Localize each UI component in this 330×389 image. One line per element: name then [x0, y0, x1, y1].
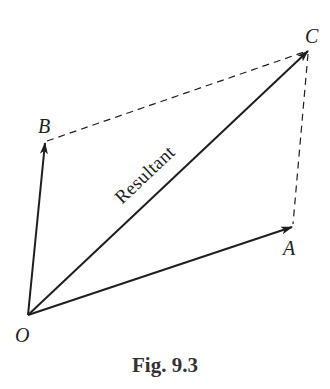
dashed-line-ac: [293, 54, 308, 224]
vector-ob: [28, 143, 45, 315]
vector-oa: [28, 227, 292, 315]
point-label-o: O: [15, 325, 29, 345]
parallelogram-of-vectors-figure: B C A O Resultant Fig. 9.3: [0, 0, 330, 389]
figure-caption: Fig. 9.3: [0, 355, 330, 376]
point-label-a: A: [283, 238, 295, 258]
dashed-line-bc: [47, 51, 307, 141]
point-label-b: B: [38, 116, 50, 136]
vector-oc-resultant: [28, 51, 308, 315]
point-label-c: C: [305, 26, 318, 46]
vector-diagram: [0, 0, 330, 389]
